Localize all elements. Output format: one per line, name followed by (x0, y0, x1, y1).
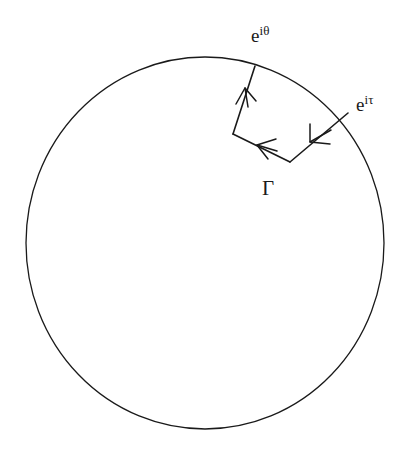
contour-gamma-group (233, 66, 348, 162)
figure-container: eiθ eiτ Γ (0, 0, 413, 455)
arrow-left-icon (257, 139, 277, 159)
label-tau-exponent: iτ (364, 92, 373, 107)
arrow-up-icon (236, 88, 256, 107)
unit-circle (26, 57, 384, 429)
circle-group (26, 57, 384, 429)
arrow-group (236, 88, 331, 159)
arrow-down-left-icon (310, 124, 331, 144)
contour-segment-left-radial (233, 66, 255, 134)
contour-segment-lower-left (233, 134, 290, 162)
label-theta-exponent: iθ (259, 23, 269, 38)
contour-diagram-svg (0, 0, 413, 455)
label-gamma: Γ (262, 178, 274, 199)
label-e-i-theta: eiθ (251, 25, 270, 45)
label-e-i-tau: eiτ (356, 94, 374, 114)
